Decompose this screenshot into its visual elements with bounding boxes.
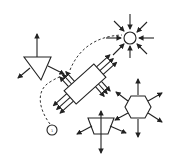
connector-node bbox=[42, 42, 128, 126]
network-diagram: 1 bbox=[0, 0, 175, 167]
small-circle-node: 1 bbox=[47, 125, 57, 135]
small-circle-label: 1 bbox=[51, 129, 53, 133]
hexagon-shape bbox=[125, 96, 151, 118]
hexagon-node bbox=[115, 79, 162, 137]
triangle-node bbox=[18, 34, 64, 80]
edge-circle-to-connector bbox=[40, 74, 66, 124]
triangle-shape bbox=[24, 57, 51, 80]
sun-circle bbox=[124, 32, 136, 44]
trapezoid-node bbox=[77, 111, 126, 153]
